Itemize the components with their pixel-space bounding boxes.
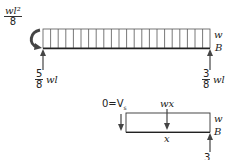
length-label-x: x [164,134,170,144]
free-body-segment [126,113,210,132]
right-reaction-arrow-icon [207,49,213,70]
left-reaction-label: 5 8 [35,69,43,90]
free-body-load-label: w [214,114,223,124]
free-body-reaction-arrow-icon [207,133,213,152]
moment-arrowhead-icon [34,43,42,50]
resultant-label: wx [160,99,174,109]
free-body-reaction-partial: 3 [204,153,210,160]
load-label-w: w [214,30,223,40]
distributed-load [43,29,210,48]
support-b-label: B [215,43,222,53]
shear-arrow-icon [118,114,124,131]
resultant-arrow-icon [164,109,170,130]
left-reaction-suffix: wl [46,75,58,85]
left-reaction-arrow-icon [40,49,46,70]
free-body-support-b-label: B [214,127,221,137]
right-reaction-label: 3 8 [202,69,210,90]
shear-label: 0=Vs [102,99,127,113]
right-reaction-suffix: wl [213,75,225,85]
moment-label: wl² 8 [4,6,22,27]
moment-denominator: 8 [10,17,16,27]
